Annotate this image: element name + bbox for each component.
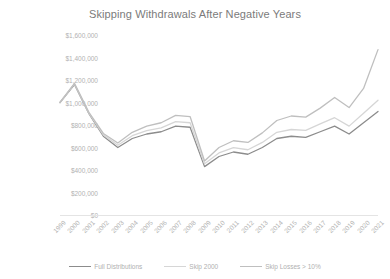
legend-color-swatch: [69, 266, 91, 268]
plot-area: [60, 35, 378, 215]
legend-item[interactable]: Skip 2000: [164, 263, 218, 270]
x-axis-line: [60, 215, 378, 216]
line-chart: Skipping Withdrawals After Negative Year…: [0, 0, 390, 279]
legend-label: Full Distributions: [94, 263, 142, 270]
series-line: [60, 85, 378, 167]
legend-color-swatch: [164, 266, 186, 268]
legend-color-swatch: [240, 266, 262, 268]
legend-label: Skip 2000: [189, 263, 218, 270]
legend-item[interactable]: Skip Losses > 10%: [240, 263, 320, 270]
legend-label: Skip Losses > 10%: [265, 263, 320, 270]
series-lines: [60, 35, 378, 215]
chart-title: Skipping Withdrawals After Negative Year…: [0, 8, 390, 20]
series-line: [60, 50, 378, 161]
legend-item[interactable]: Full Distributions: [69, 263, 142, 270]
chart-legend: Full DistributionsSkip 2000Skip Losses >…: [0, 263, 390, 270]
series-line: [60, 84, 378, 164]
